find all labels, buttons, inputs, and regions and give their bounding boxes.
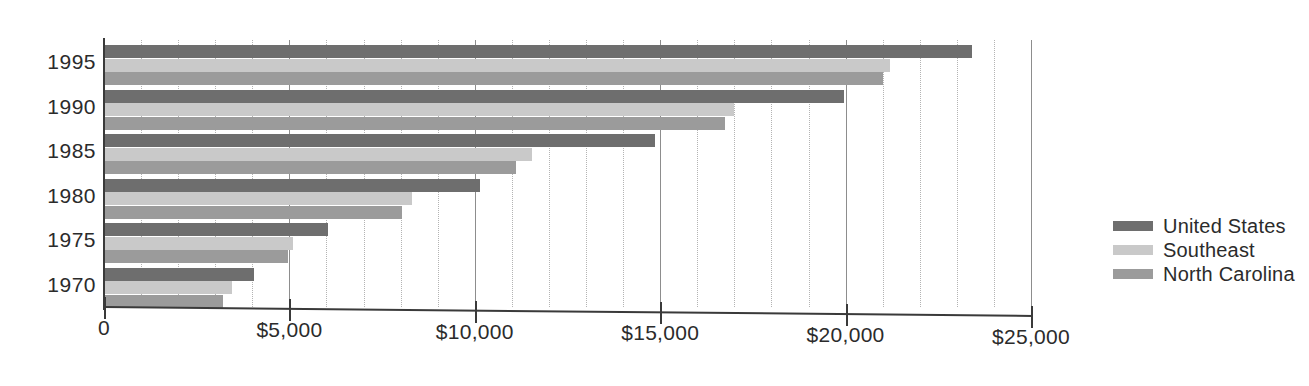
legend-item: Southeast: [1113, 239, 1295, 261]
bar-group: [104, 179, 1031, 224]
legend-swatch-icon: [1113, 245, 1153, 255]
bar: [104, 90, 844, 103]
x-axis-tick-label: 0: [98, 316, 110, 340]
bar-group: [104, 90, 1031, 135]
bar: [104, 59, 890, 72]
x-axis-tick-label: $10,000: [436, 320, 514, 344]
bar: [104, 206, 402, 219]
bar: [104, 237, 293, 250]
y-axis-tick-label: 1985: [47, 139, 96, 163]
gridline-major: [1031, 40, 1032, 307]
bar: [104, 268, 254, 281]
x-axis-tick-label: $20,000: [807, 323, 885, 347]
legend-item-label: North Carolina: [1163, 263, 1295, 286]
y-axis-tick-label: 1970: [47, 273, 96, 297]
bar-chart: 199519901985198019751970 0$5,000$10,000$…: [0, 0, 1309, 386]
legend: United StatesSoutheastNorth Carolina: [1113, 215, 1295, 287]
y-axis-tick-label: 1990: [47, 95, 96, 119]
bar-group: [104, 223, 1031, 268]
y-axis-tick-label: 1980: [47, 184, 96, 208]
x-axis-tick-label: $15,000: [621, 321, 699, 345]
legend-swatch-icon: [1113, 269, 1153, 279]
y-axis-tick-label: 1995: [47, 50, 96, 74]
y-axis-line: [103, 38, 105, 310]
bar: [104, 117, 725, 130]
bar-group: [104, 268, 1031, 313]
bar: [104, 72, 883, 85]
bar: [104, 134, 655, 147]
bar: [104, 223, 328, 236]
legend-item: North Carolina: [1113, 263, 1295, 285]
bar: [104, 161, 516, 174]
plot-area: [104, 40, 1031, 307]
x-axis-tick-label: $25,000: [992, 325, 1070, 349]
x-axis-tick-label: $5,000: [256, 318, 322, 342]
bar: [104, 250, 288, 263]
bar: [104, 148, 532, 161]
legend-swatch-icon: [1113, 221, 1153, 231]
bar: [104, 179, 480, 192]
bar: [104, 281, 232, 294]
bar: [104, 103, 734, 116]
y-axis-tick-label: 1975: [47, 228, 96, 252]
legend-item: United States: [1113, 215, 1295, 237]
bar-group: [104, 45, 1031, 90]
bar: [104, 192, 412, 205]
bar-group: [104, 134, 1031, 179]
bar: [104, 45, 972, 58]
legend-item-label: Southeast: [1163, 239, 1255, 262]
legend-item-label: United States: [1163, 215, 1286, 238]
